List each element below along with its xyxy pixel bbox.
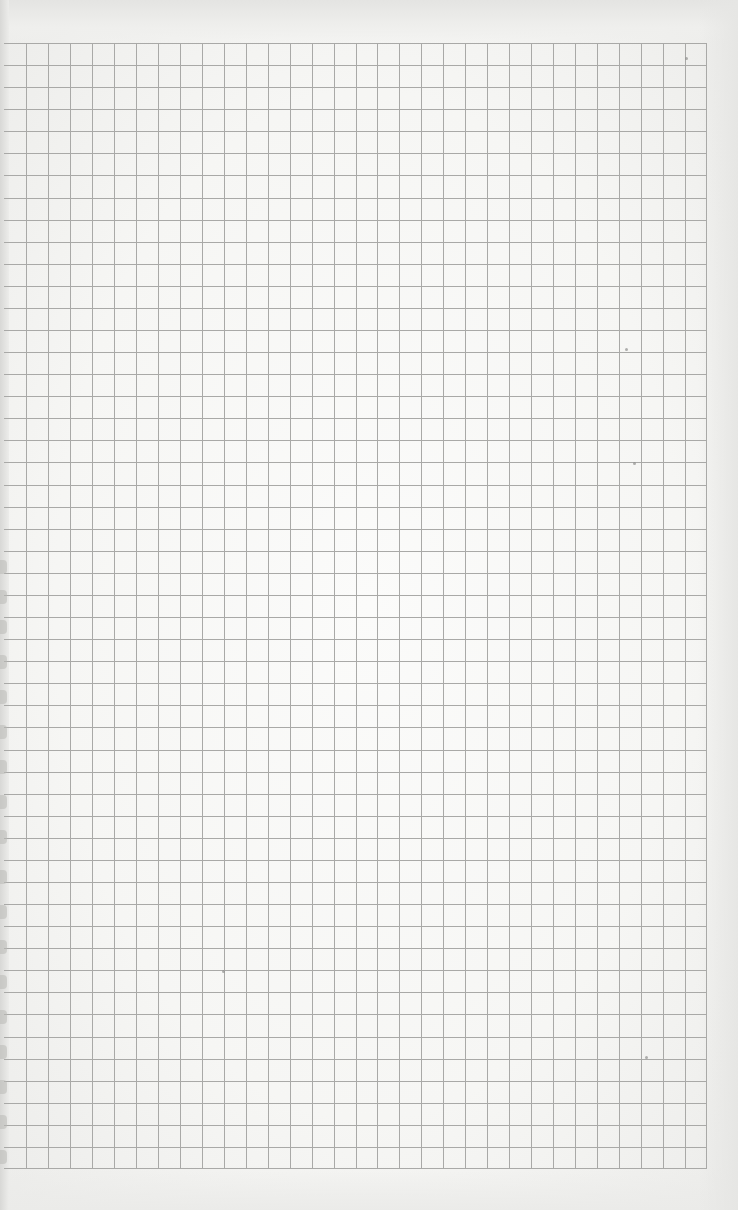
binding-shadow-mark [0,655,7,669]
binding-shadow-mark [0,940,7,954]
binding-shadow-mark [0,830,7,844]
binding-shadow-mark [0,760,7,774]
binding-shadow-mark [0,725,7,739]
binding-shadow-mark [0,1115,7,1129]
grid [4,43,707,1169]
binding-shadow-mark [0,870,7,884]
paper-speck [222,970,225,973]
binding-shadow-mark [0,1150,7,1164]
paper-speck [633,462,636,465]
binding-shadow-mark [0,560,7,574]
grid-lines [4,43,707,1169]
paper-speck [685,57,688,60]
binding-shadow-mark [0,795,7,809]
binding-shadow-mark [0,690,7,704]
graph-paper-sheet [0,0,738,1210]
binding-shadow-mark [0,905,7,919]
bottom-shadow [0,1165,738,1210]
binding-shadow-mark [0,975,7,989]
binding-shadow-mark [0,1010,7,1024]
paper-speck [645,1056,648,1059]
binding-shadow-mark [0,620,7,634]
binding-shadow-mark [0,1080,7,1094]
binding-shadow-mark [0,1045,7,1059]
paper-speck [625,348,628,351]
binding-shadow-mark [0,590,7,604]
top-shadow [0,0,738,45]
